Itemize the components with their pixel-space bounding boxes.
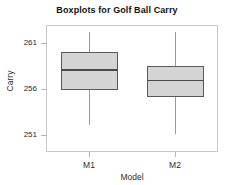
x-axis-tick <box>89 152 90 157</box>
x-axis-tick-label-m2: M2 <box>155 160 195 170</box>
y-axis-tick-label: 261 <box>24 39 37 47</box>
upper-whisker <box>89 32 90 51</box>
chart-title: Boxplots for Golf Ball Carry <box>0 5 234 15</box>
x-axis-label: Model <box>46 172 218 182</box>
median-line <box>61 69 118 71</box>
x-axis-tick-label-m1: M1 <box>69 160 109 170</box>
y-axis-tick-label: 256 <box>24 85 37 93</box>
y-axis-tick <box>41 43 47 44</box>
y-axis-label: Carry <box>5 59 15 103</box>
lower-whisker <box>89 90 90 125</box>
box-iqr <box>147 66 204 98</box>
y-axis-tick <box>41 89 47 90</box>
upper-whisker <box>175 32 176 65</box>
y-axis-tick <box>41 135 47 136</box>
median-line <box>147 80 204 82</box>
y-axis-tick-label: 251 <box>24 131 37 139</box>
boxplot-chart: Boxplots for Golf Ball Carry Carry 26125… <box>0 0 234 185</box>
x-axis-tick <box>175 152 176 157</box>
lower-whisker <box>175 97 176 134</box>
